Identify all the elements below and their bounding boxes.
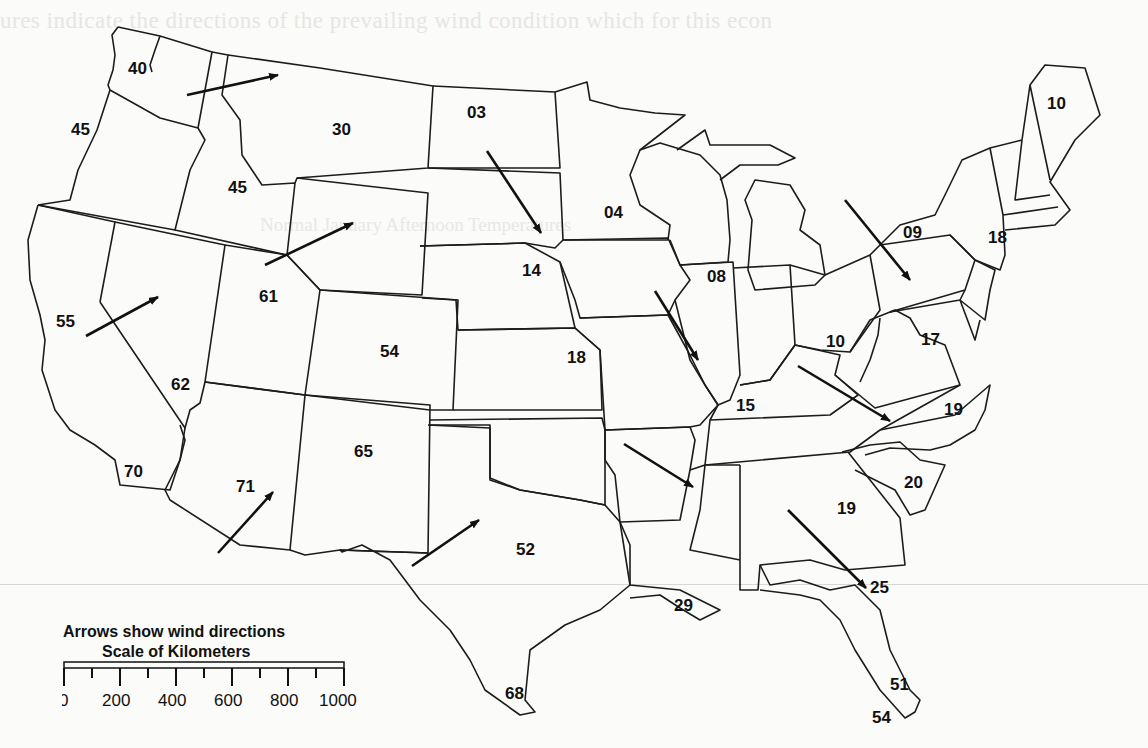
temp-label-ca-s: 70 <box>124 462 143 481</box>
temp-label-fl-s: 51 <box>890 675 909 694</box>
temp-label-tx-s: 68 <box>505 684 524 703</box>
temp-label-nm: 65 <box>354 442 373 461</box>
wind-arrow-icon <box>845 200 910 280</box>
wind-arrow-icon <box>412 520 479 566</box>
temp-label-wa: 40 <box>128 59 147 78</box>
state-wv-va <box>835 310 960 408</box>
temp-label-mt: 30 <box>332 120 351 139</box>
wind-arrow-icon <box>265 223 353 265</box>
state-wisconsin <box>640 143 730 265</box>
wind-arrow-icon <box>86 297 158 336</box>
state-kansas <box>453 328 602 410</box>
temp-label-fl-k: 54 <box>872 708 891 727</box>
state-new-mexico <box>290 395 430 555</box>
temp-label-ut: 61 <box>259 287 278 306</box>
wind-arrow-icon <box>624 444 693 487</box>
wind-arrows <box>86 75 910 588</box>
state-iowa <box>560 238 690 318</box>
state-south-dakota <box>420 168 563 248</box>
state-oklahoma <box>430 418 605 505</box>
state-south-carolina <box>842 442 945 515</box>
temp-label-or: 45 <box>71 120 90 139</box>
state-florida <box>760 565 920 718</box>
temp-label-tx: 52 <box>516 540 535 559</box>
wind-arrow-icon <box>487 151 541 233</box>
state-new-york <box>880 148 1005 270</box>
wind-arrow-icon <box>798 366 890 421</box>
state-michigan-lower <box>745 180 825 290</box>
state-nebraska <box>420 243 575 330</box>
state-nj-md-de <box>890 260 995 340</box>
wind-arrow-icon <box>187 75 278 95</box>
temp-label-mn: 04 <box>604 203 623 222</box>
state-boundaries <box>28 27 1100 718</box>
state-montana <box>228 55 433 183</box>
temp-label-nd: 03 <box>467 103 486 122</box>
state-nevada <box>100 222 225 428</box>
wind-arrow-icon <box>655 291 698 360</box>
scale-tick-800: 800 <box>270 691 298 710</box>
temp-label-co: 54 <box>380 342 399 361</box>
temp-label-ny: 09 <box>903 223 922 242</box>
temp-label-ne: 14 <box>522 261 541 280</box>
temp-label-nv: 62 <box>171 375 190 394</box>
temp-label-oh: 10 <box>826 332 845 351</box>
scale-tick-200: 200 <box>102 691 130 710</box>
scale-bar: 0 200 400 600 800 1000 <box>62 640 362 710</box>
state-north-carolina <box>865 385 990 455</box>
temp-label-nc: 19 <box>944 400 963 419</box>
state-michigan-upper <box>677 130 795 180</box>
temp-label-sc: 20 <box>904 473 923 492</box>
temp-label-la: 29 <box>674 596 693 615</box>
state-new-england <box>990 65 1100 230</box>
temp-label-me: 10 <box>1047 94 1066 113</box>
temp-label-fl-n: 25 <box>870 578 889 597</box>
state-washington <box>108 27 212 128</box>
scale-tick-600: 600 <box>214 691 242 710</box>
state-idaho <box>175 52 295 255</box>
temp-label-ca-n: 55 <box>56 312 75 331</box>
state-texas <box>340 425 630 715</box>
state-arizona <box>165 382 305 550</box>
temp-label-il: 08 <box>707 267 726 286</box>
scale-tick-400: 400 <box>158 691 186 710</box>
temp-label-az: 71 <box>236 477 255 496</box>
wind-arrow-icon <box>788 510 866 588</box>
legend-arrows-caption: Arrows show wind directions <box>63 623 285 641</box>
scale-tick-0: 0 <box>62 691 68 710</box>
temp-label-ct: 18 <box>988 228 1007 247</box>
state-missouri <box>575 315 718 430</box>
temp-label-ks: 18 <box>567 348 586 367</box>
state-north-dakota <box>428 86 560 168</box>
state-indiana <box>733 265 795 385</box>
scale-tick-1000: 1000 <box>319 691 357 710</box>
state-california <box>28 205 185 490</box>
temp-label-id: 45 <box>228 178 247 197</box>
temp-label-va: 17 <box>921 330 940 349</box>
state-oregon <box>38 90 205 230</box>
wind-arrow-icon <box>218 492 273 553</box>
temp-label-ky: 15 <box>736 396 755 415</box>
temp-label-ga: 19 <box>837 499 856 518</box>
